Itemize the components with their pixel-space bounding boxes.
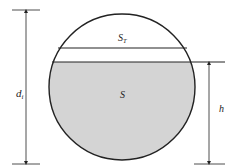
diameter-label: di — [16, 87, 24, 101]
liquid-region — [40, 62, 210, 168]
tank-cross-section-diagram: di ST S h — [0, 0, 233, 168]
liquid-area-label: S — [120, 89, 125, 100]
liquid-height-label: h — [219, 103, 224, 114]
top-segment-label: ST — [118, 32, 127, 44]
